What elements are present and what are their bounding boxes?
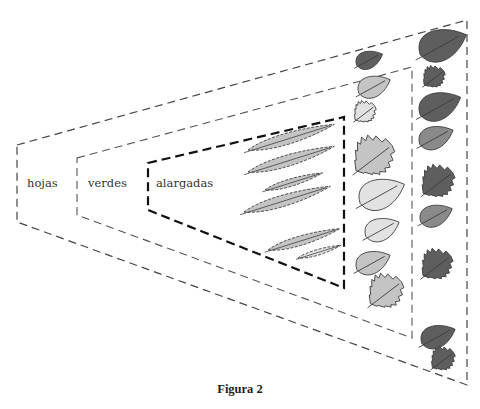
set-boundary-hojas — [17, 20, 467, 385]
serrated-leaf-icon — [408, 156, 461, 208]
set-label-hojas: hojas — [27, 176, 58, 190]
serrated-leaf-icon — [345, 95, 380, 129]
nested-sets-diagram: hojas verdes alargadas — [0, 0, 480, 409]
set-boundary-alargadas — [148, 117, 344, 288]
leaf-icon — [410, 86, 465, 128]
figure-caption: Figura 2 — [0, 382, 480, 397]
serrated-leaf-icon — [409, 241, 459, 290]
leaf-icon — [412, 121, 457, 155]
serrated-leaf-icon — [338, 125, 403, 188]
set-label-alargadas: alargadas — [156, 176, 213, 190]
set-label-verdes: verdes — [87, 176, 127, 190]
leaf-icon — [358, 213, 403, 247]
leaf-icon — [351, 71, 394, 103]
leaf-icon — [349, 172, 409, 217]
set-boundaries — [17, 20, 467, 385]
elongated-leaf-icon — [295, 244, 342, 261]
serrated-leaf-icon — [414, 60, 449, 94]
leaf-icon — [409, 22, 472, 69]
leaf-icon — [413, 200, 456, 232]
leaf-illustrations — [238, 22, 472, 379]
